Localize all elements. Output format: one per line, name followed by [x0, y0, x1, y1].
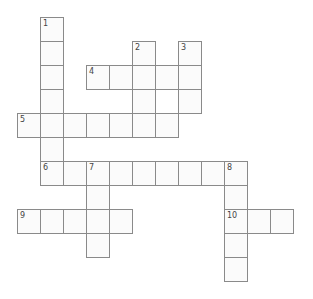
crossword-cell[interactable]: 2 — [132, 41, 156, 66]
crossword-cell[interactable] — [109, 65, 133, 90]
clue-number: 2 — [135, 43, 140, 53]
crossword-cell[interactable] — [86, 113, 110, 138]
crossword-cell[interactable] — [270, 209, 294, 234]
crossword-grid: 16234578109 — [0, 0, 313, 299]
crossword-cell[interactable]: 8 — [224, 161, 248, 186]
clue-number: 9 — [20, 211, 25, 221]
crossword-cell[interactable] — [86, 209, 110, 234]
crossword-cell[interactable]: 1 — [40, 17, 64, 42]
clue-number: 4 — [89, 67, 94, 77]
crossword-cell[interactable] — [155, 161, 179, 186]
crossword-cell[interactable] — [109, 113, 133, 138]
crossword-cell[interactable] — [63, 209, 87, 234]
crossword-cell[interactable] — [40, 89, 64, 114]
crossword-cell[interactable] — [178, 161, 202, 186]
crossword-cell[interactable]: 6 — [40, 161, 64, 186]
crossword-cell[interactable] — [40, 113, 64, 138]
crossword-cell[interactable] — [132, 89, 156, 114]
clue-number: 6 — [43, 163, 48, 173]
crossword-cell[interactable]: 4 — [86, 65, 110, 90]
crossword-cell[interactable] — [224, 233, 248, 258]
crossword-cell[interactable] — [178, 65, 202, 90]
crossword-cell[interactable] — [132, 65, 156, 90]
clue-number: 1 — [43, 19, 48, 29]
clue-number: 5 — [20, 115, 25, 125]
crossword-cell[interactable] — [109, 161, 133, 186]
crossword-cell[interactable] — [224, 185, 248, 210]
crossword-cell[interactable]: 10 — [224, 209, 248, 234]
crossword-cell[interactable] — [132, 113, 156, 138]
crossword-cell[interactable] — [63, 113, 87, 138]
clue-number: 10 — [227, 211, 237, 221]
crossword-cell[interactable] — [201, 161, 225, 186]
crossword-cell[interactable] — [40, 137, 64, 162]
crossword-cell[interactable] — [40, 65, 64, 90]
crossword-cell[interactable] — [86, 185, 110, 210]
crossword-cell[interactable] — [247, 209, 271, 234]
crossword-cell[interactable] — [155, 65, 179, 90]
crossword-cell[interactable]: 9 — [17, 209, 41, 234]
clue-number: 8 — [227, 163, 232, 173]
crossword-cell[interactable] — [63, 161, 87, 186]
crossword-cell[interactable]: 5 — [17, 113, 41, 138]
crossword-cell[interactable] — [155, 113, 179, 138]
crossword-cell[interactable] — [40, 209, 64, 234]
crossword-cell[interactable] — [178, 89, 202, 114]
clue-number: 3 — [181, 43, 186, 53]
crossword-cell[interactable]: 3 — [178, 41, 202, 66]
crossword-cell[interactable] — [132, 161, 156, 186]
crossword-cell[interactable] — [86, 233, 110, 258]
crossword-cell[interactable] — [224, 257, 248, 282]
crossword-cell[interactable] — [109, 209, 133, 234]
clue-number: 7 — [89, 163, 94, 173]
crossword-cell[interactable]: 7 — [86, 161, 110, 186]
crossword-cell[interactable] — [40, 41, 64, 66]
